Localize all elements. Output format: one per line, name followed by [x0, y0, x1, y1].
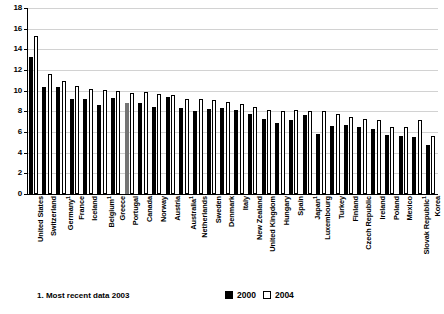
- x-axis-category-labels: United StatesSwitzerlandGermany1FranceIc…: [27, 196, 438, 282]
- bar-2000: [179, 108, 183, 194]
- bar-group: [357, 8, 367, 194]
- plot-area: 024681012141618: [27, 8, 438, 194]
- y-axis-tick-label: 6: [18, 128, 22, 136]
- bar-2000: [344, 125, 348, 194]
- bar-2000: [262, 119, 266, 194]
- bar-2000: [111, 98, 115, 194]
- bar-2004: [377, 120, 381, 194]
- x-axis-label: Sweden: [215, 196, 223, 223]
- bar-2004: [34, 36, 38, 194]
- bar-group: [234, 8, 244, 194]
- bar-2000: [399, 136, 403, 194]
- legend-label: 2000: [237, 290, 256, 300]
- bar-group: [97, 8, 107, 194]
- bar-2000: [152, 107, 156, 194]
- bar-2000: [29, 57, 33, 194]
- bar-2004: [48, 74, 52, 194]
- bar-group: [385, 8, 395, 194]
- bar-group: [248, 8, 258, 194]
- x-axis-label: New Zealand: [256, 196, 264, 240]
- bar-2000: [42, 87, 46, 194]
- bar-2000: [193, 111, 197, 194]
- bar-2000: [289, 120, 293, 194]
- y-axis-tick-label: 12: [14, 66, 23, 74]
- bar-2000: [412, 137, 416, 194]
- legend-item: 2000: [225, 290, 256, 300]
- bar-2000: [248, 114, 252, 194]
- x-axis-label: Canada: [146, 196, 154, 222]
- bar-2004: [431, 136, 435, 194]
- x-axis-label: Portugal: [132, 196, 140, 225]
- bar-group: [207, 8, 217, 194]
- bar-2004: [253, 107, 257, 194]
- bar-2004: [267, 110, 271, 194]
- bar-2004: [75, 86, 79, 195]
- x-axis-label: Italy: [242, 196, 250, 210]
- bar-2004: [157, 94, 161, 194]
- bar-2000: [330, 126, 334, 194]
- bar-group: [193, 8, 203, 194]
- chart-footnote: 1. Most recent data 2003: [37, 291, 129, 300]
- bar-group: [426, 8, 436, 194]
- bars-layer: [27, 8, 438, 194]
- bar-group: [111, 8, 121, 194]
- y-axis-tick-label: 10: [14, 87, 23, 95]
- bar-group: [275, 8, 285, 194]
- bar-2000: [166, 97, 170, 194]
- bar-2000: [97, 105, 101, 194]
- x-axis-label: Luxembourg: [324, 196, 332, 240]
- bar-2004: [185, 99, 189, 194]
- bar-group: [29, 8, 39, 194]
- x-axis-label: Australia1: [187, 196, 198, 230]
- x-axis-label: Iceland: [91, 196, 99, 221]
- chart-legend: 20002004: [225, 290, 294, 300]
- x-axis-label: Poland: [393, 196, 401, 220]
- x-axis-label: France: [78, 196, 86, 220]
- bar-2000: [371, 129, 375, 194]
- x-axis-label: Slovak Republic1: [420, 196, 431, 255]
- health-expenditure-bar-chart: 024681012141618 United StatesSwitzerland…: [0, 0, 444, 314]
- y-axis-tick-label: 16: [14, 25, 23, 33]
- bar-2000: [56, 87, 60, 194]
- x-axis-label: Japan1: [311, 196, 322, 220]
- y-axis-tick-label: 0: [18, 190, 22, 198]
- legend-item: 2004: [263, 290, 294, 300]
- bar-2004: [308, 111, 312, 194]
- x-axis-label: Belgium1: [105, 196, 116, 227]
- bar-2000: [303, 115, 307, 194]
- bar-group: [330, 8, 340, 194]
- bar-2000: [316, 134, 320, 194]
- bar-2004: [171, 95, 175, 194]
- bar-2004: [294, 110, 298, 194]
- x-axis-label: Czech Republic: [365, 196, 373, 250]
- bar-2004: [418, 120, 422, 194]
- bar-2004: [144, 92, 148, 194]
- y-axis-tick-label: 18: [14, 4, 23, 12]
- bar-group: [399, 8, 409, 194]
- bar-group: [303, 8, 313, 194]
- x-axis-label: Spain: [297, 196, 305, 216]
- y-axis-line: [27, 8, 28, 195]
- x-axis-label: Finland: [352, 196, 360, 222]
- bar-2000: [385, 135, 389, 194]
- x-axis-label: Mexico: [406, 196, 414, 220]
- bar-2000: [138, 103, 142, 194]
- x-axis-label: Netherlands: [201, 196, 209, 238]
- bar-group: [262, 8, 272, 194]
- x-axis-label: Germany1: [64, 196, 75, 230]
- bar-2004: [322, 111, 326, 194]
- x-axis-label: Norway: [160, 196, 168, 222]
- bar-2004: [240, 104, 244, 194]
- bar-2004: [103, 90, 107, 194]
- y-axis-tick-label: 8: [18, 107, 22, 115]
- bar-2000: [426, 145, 430, 194]
- bar-2004: [212, 100, 216, 194]
- bar-group: [289, 8, 299, 194]
- bar-group: [152, 8, 162, 194]
- bar-group: [83, 8, 93, 194]
- x-axis-label: United Kingdom: [269, 196, 277, 252]
- bar-2004: [404, 127, 408, 194]
- bar-2000: [275, 123, 279, 194]
- bar-group: [166, 8, 176, 194]
- bar-group: [316, 8, 326, 194]
